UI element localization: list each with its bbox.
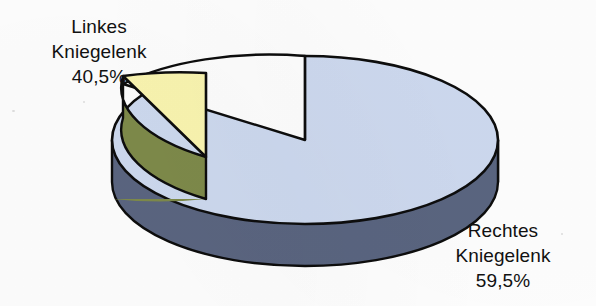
- label-right-line2: Kniegelenk: [420, 243, 586, 268]
- label-left-line1: Linkes: [18, 14, 180, 39]
- label-right-value: 59,5%: [420, 268, 586, 293]
- slice-label-rechtes-kniegelenk: Rechtes Kniegelenk 59,5%: [420, 218, 586, 293]
- label-right-line1: Rechtes: [420, 218, 586, 243]
- pie-chart-figure: Linkes Kniegelenk 40,5% Rechtes Kniegele…: [0, 0, 596, 306]
- slice-label-linkes-kniegelenk: Linkes Kniegelenk 40,5%: [18, 14, 180, 89]
- label-left-line2: Kniegelenk: [18, 39, 180, 64]
- label-left-value: 40,5%: [18, 64, 180, 89]
